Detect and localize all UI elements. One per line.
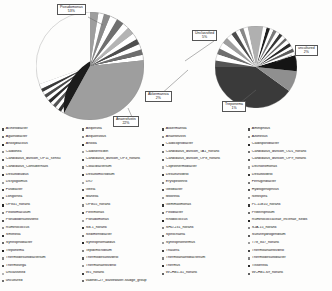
legend-item: Pelobacter	[162, 211, 248, 219]
legend-item: Thauera	[162, 249, 248, 257]
legend-item: Thermodesulfovibrio	[82, 256, 162, 264]
legend: AcinetobacterAgathobacterAnoxybacillusCa…	[2, 127, 332, 290]
legend-item-label: Ruminococcaceae_Incertae_Sedis	[252, 218, 308, 222]
legend-swatch-icon	[82, 189, 84, 191]
legend-item: Gemmatimonas	[162, 203, 248, 211]
legend-item-label: Candidatus_division_OP9_norank	[252, 157, 306, 161]
legend-item-label: Candidatus_division_TA1_norank	[166, 150, 219, 154]
legend-item-label: Caldiserricibin	[86, 150, 109, 154]
legend-item-label: Thermodesulfobacter	[252, 256, 286, 260]
legend-item-label: Gelria	[86, 188, 96, 192]
legend-item-label: Candidatus_division_OD1_norank	[252, 150, 307, 154]
legend-item: Unclassified	[2, 271, 82, 279]
legend-swatch-icon	[162, 166, 164, 168]
legend-swatch-icon	[162, 189, 164, 191]
legend-item: Anaerofustis	[162, 135, 248, 143]
legend-item-label: T78_847_norank	[252, 241, 279, 245]
legend-item-label: OPB55_norank	[86, 203, 111, 207]
legend-swatch-icon	[2, 128, 4, 130]
legend-item-label: Thermodesulfobacterium	[6, 256, 46, 260]
legend-swatch-icon	[82, 257, 84, 259]
legend-item-label: Thermanaerovibrio	[86, 264, 116, 268]
legend-item-label: Candidatus_Contubernalis	[6, 165, 48, 169]
legend-swatch-icon	[248, 273, 250, 275]
legend-swatch-icon	[2, 227, 4, 229]
legend-item: SB-1_norank	[82, 226, 162, 234]
legend-swatch-icon	[248, 212, 250, 214]
legend-item: Pelotomaculum	[2, 211, 82, 219]
callout-unclassified: Unclassified 5%	[192, 30, 217, 41]
legend-item: Agathobacter	[2, 135, 82, 143]
legend-item: Candidatus_division_OP9_norank	[248, 157, 332, 165]
legend-swatch-icon	[2, 212, 4, 214]
legend-item: Desulfovibrio	[248, 173, 332, 181]
legend-swatch-icon	[162, 273, 164, 275]
legend-item: OPB55_norank	[82, 203, 162, 211]
legend-item: Sulfurihydrogenibium	[248, 233, 332, 241]
legend-item-label: Desulfobulbus	[6, 173, 29, 177]
legend-item-label: Anaerofustis	[166, 135, 186, 139]
legend-swatch-icon	[82, 242, 84, 244]
legend-swatch-icon	[248, 242, 250, 244]
legend-item-label: Thermoanaerovibrio	[252, 249, 284, 253]
legend-item: Candidatus_Contubernalis	[2, 165, 82, 173]
legend-swatch-icon	[248, 197, 250, 199]
legend-item-label: Gemmatimonas	[166, 203, 191, 207]
legend-item-label: Dechloromonas	[252, 165, 277, 169]
legend-item-label: Syntrophothermus	[166, 241, 195, 245]
legend-item: Aeqorivita	[82, 127, 162, 135]
legend-item-label: Desulfomicrobium	[86, 173, 115, 177]
legend-item-label: Syntrophorhabdus	[86, 241, 115, 245]
legend-swatch-icon	[2, 204, 4, 206]
legend-item-label: Aequorivillus	[86, 135, 106, 139]
legend-item: Desulfurivibrio	[162, 173, 248, 181]
legend-swatch-icon	[82, 250, 84, 252]
legend-item: Ruminococcus	[2, 226, 82, 234]
legend-item: WCHB1-41_norank	[162, 271, 248, 279]
legend-item: Smithella	[2, 233, 82, 241]
legend-swatch-icon	[2, 242, 4, 244]
legend-swatch-icon	[82, 128, 84, 130]
legend-item: Thermus	[162, 264, 248, 272]
legend-swatch-icon	[2, 257, 4, 259]
legend-item: Desulfomicrobium	[82, 173, 162, 181]
legend-swatch-icon	[162, 174, 164, 176]
legend-item: Proteiniphilum	[248, 211, 332, 219]
legend-item: Acinetobacter	[2, 127, 82, 135]
legend-item: Caldilinea	[2, 150, 82, 158]
legend-swatch-icon	[82, 182, 84, 184]
legend-item: Caldiserricibin	[82, 150, 162, 158]
pie-panel: Pseudomonas 53% Unclassified 5% uncultur…	[0, 0, 332, 126]
legend-item-label: OP841_norank	[6, 203, 30, 207]
legend-swatch-icon	[248, 144, 250, 146]
legend-swatch-icon	[248, 128, 250, 130]
legend-item: Treponema	[2, 249, 82, 257]
legend-swatch-icon	[2, 174, 4, 176]
legend-item: Desulfobulbus	[2, 173, 82, 181]
legend-item: Thermovirga	[2, 264, 82, 272]
legend-item: Thermodesulfobacterium	[2, 256, 82, 264]
legend-item-label: Candidatus_division_OP3_norank	[86, 157, 140, 161]
legend-item: uncultured	[2, 279, 82, 287]
legend-item-label: Thermovirga	[6, 264, 26, 268]
legend-item: Azonexus	[248, 135, 332, 143]
legend-item: Syntrophorhabdus	[82, 241, 162, 249]
legend-item-label: Caldilinea	[6, 150, 22, 154]
legend-item-label: Longilinea	[6, 195, 22, 199]
legend-swatch-icon	[82, 265, 84, 267]
legend-item-label: uncultured	[6, 279, 23, 283]
legend-item-label: Aeqorivita	[86, 127, 102, 131]
legend-swatch-icon	[2, 265, 4, 267]
legend-item: Gelria	[82, 188, 162, 196]
legend-swatch-icon	[2, 280, 4, 282]
legend-swatch-icon	[82, 212, 84, 214]
legend-item: Coprothermobacter	[162, 165, 248, 173]
legend-item: Candidatus_division_OD1_norank	[248, 150, 332, 158]
callout-pseudomonas: Pseudomonas 53%	[57, 4, 86, 15]
legend-swatch-icon	[248, 136, 250, 138]
legend-item: Ruminococcaceae_Incertae_Sedis	[248, 218, 332, 226]
legend-swatch-icon	[162, 220, 164, 222]
legend-item-label: Pseudodesulfovibrio	[6, 218, 38, 222]
legend-item-label: Candidatus_division_OP8_norank	[166, 157, 220, 161]
legend-item-label: Caldicoprobacter	[166, 142, 193, 146]
